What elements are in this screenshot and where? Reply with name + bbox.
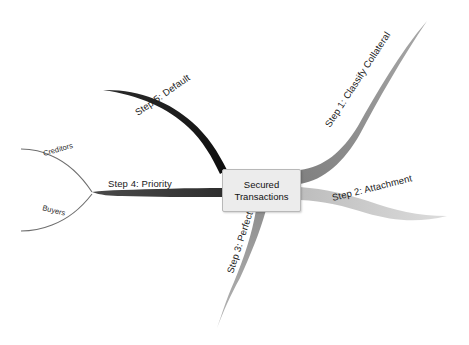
branch-step3[interactable]: Step 3: Perfection xyxy=(217,198,266,328)
branch-step1[interactable]: Step 1: Classify Collateral xyxy=(300,21,427,184)
subbranch-creditors-stroke xyxy=(21,149,92,192)
branch-step5-stroke xyxy=(103,90,227,174)
branch-step2-label: Step 2: Attachment xyxy=(331,172,414,203)
central-topic-node[interactable]: Secured Transactions xyxy=(222,169,301,212)
subbranch-creditors[interactable]: Creditors xyxy=(21,141,92,192)
subbranch-buyers[interactable]: Buyers xyxy=(21,194,92,231)
branch-step1-label: Step 1: Classify Collateral xyxy=(322,30,392,129)
subbranch-buyers-label: Buyers xyxy=(42,203,67,217)
branch-step1-stroke xyxy=(300,21,427,184)
branch-step4[interactable]: Step 4: Priority xyxy=(92,178,224,197)
subbranch-creditors-label: Creditors xyxy=(42,141,74,158)
central-topic-line-1: Secured xyxy=(244,179,279,191)
branch-step5-label: Step 5: Default xyxy=(133,72,192,118)
branch-step2[interactable]: Step 2: Attachment xyxy=(300,172,447,220)
branch-step4-stroke xyxy=(92,188,224,197)
branch-step5[interactable]: Step 5: Default xyxy=(103,72,227,174)
central-topic-line-2: Transactions xyxy=(234,191,288,203)
branch-step4-label: Step 4: Priority xyxy=(108,178,172,189)
mindmap-canvas: Step 1: Classify Collateral Step 2: Atta… xyxy=(0,0,469,345)
